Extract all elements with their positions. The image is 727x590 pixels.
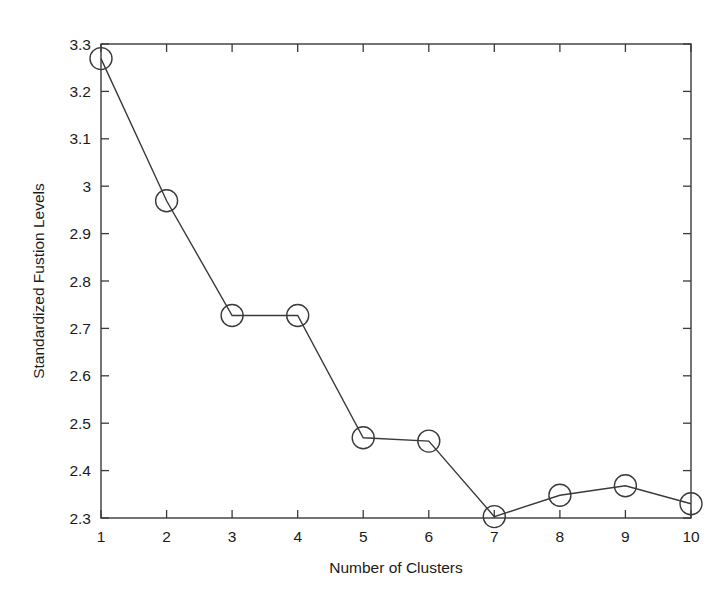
- x-tick-label: 3: [228, 528, 237, 545]
- x-tick-label: 6: [424, 528, 433, 545]
- x-tick-label: 1: [97, 528, 106, 545]
- y-axis-title: Standardized Fustion Levels: [30, 183, 47, 379]
- y-tick-label: 2.9: [69, 225, 91, 242]
- y-tick-label: 3.2: [69, 83, 91, 100]
- x-tick-label: 9: [621, 528, 630, 545]
- y-tick-label: 2.3: [69, 510, 91, 527]
- y-tick-label: 3.1: [69, 130, 91, 147]
- y-tick-label: 2.7: [69, 320, 91, 337]
- chart-figure: 2.3 2.4 2.5 2.6 2.7 2.8 2.9 3 3.1 3.2 3.…: [0, 0, 727, 590]
- x-axis-tick-labels: 1 2 3 4 5 6 7 8 9 10: [97, 528, 700, 545]
- y-tick-label: 3: [82, 178, 91, 195]
- x-tick-label: 7: [490, 528, 499, 545]
- x-tick-label: 2: [162, 528, 171, 545]
- chart-plot-area: 2.3 2.4 2.5 2.6 2.7 2.8 2.9 3 3.1 3.2 3.…: [0, 0, 727, 590]
- y-tick-label: 3.3: [69, 36, 91, 53]
- y-tick-label: 2.8: [69, 273, 91, 290]
- y-axis-tick-labels: 2.3 2.4 2.5 2.6 2.7 2.8 2.9 3 3.1 3.2 3.…: [69, 36, 91, 527]
- x-axis-title: Number of Clusters: [329, 559, 463, 576]
- x-tick-label: 4: [293, 528, 302, 545]
- plot-background: [101, 44, 691, 518]
- y-tick-label: 2.4: [69, 462, 91, 479]
- x-tick-label: 8: [556, 528, 565, 545]
- x-tick-label: 5: [359, 528, 368, 545]
- y-tick-label: 2.6: [69, 367, 91, 384]
- y-tick-label: 2.5: [69, 415, 91, 432]
- x-tick-label: 10: [682, 528, 700, 545]
